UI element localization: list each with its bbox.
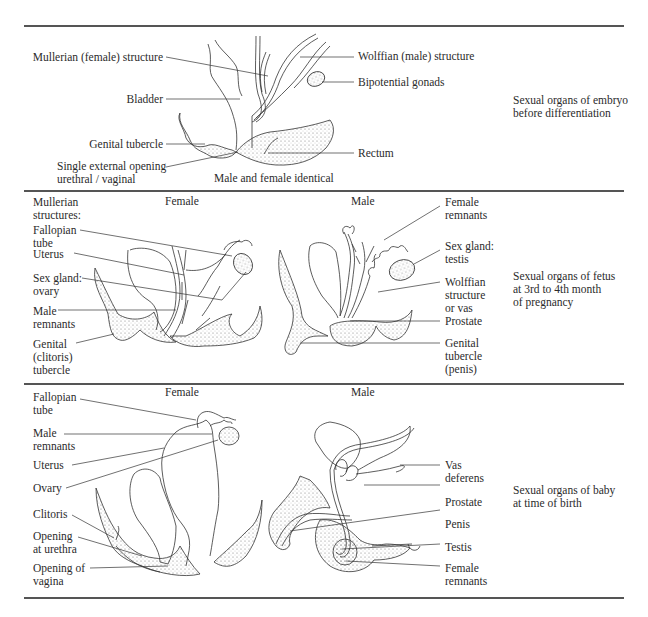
label-line: Vas	[445, 459, 484, 472]
label-fallopian-tube: Fallopian tube	[33, 224, 76, 250]
label-line: tubercle	[33, 364, 73, 377]
caption-line: of pregnancy	[513, 296, 615, 309]
label-line: deferens	[445, 472, 484, 485]
label-line: Female	[445, 196, 487, 209]
label-sex-gland-ovary: Sex gland: ovary	[33, 272, 82, 298]
label-vas-deferens: Vas deferens	[445, 459, 484, 485]
label-line: structure	[445, 289, 485, 302]
label-single-external-opening: Single external opening urethral / vagin…	[57, 160, 166, 186]
label-line: Genital	[33, 338, 73, 351]
label-female-remnants-birth: Female remnants	[445, 562, 487, 588]
label-ovary-birth: Ovary	[33, 482, 62, 495]
label-line: Testis	[445, 541, 472, 554]
label-line: Fallopian	[33, 224, 76, 237]
label-line: Male	[33, 305, 75, 318]
label-line: Female	[445, 562, 487, 575]
caption-embryo: Sexual organs of embryo before different…	[513, 94, 628, 120]
label-line: (clitoris)	[33, 351, 73, 364]
label-line: Genital	[445, 337, 482, 350]
label-line: Male	[33, 427, 75, 440]
caption-line: before differentiation	[513, 107, 628, 120]
label-line: Prostate	[445, 315, 482, 328]
label-line: Ovary	[33, 482, 62, 495]
label-line: structures:	[33, 209, 81, 222]
label-mullerian-female-structure: Mullerian (female) structure	[33, 51, 163, 64]
fetus-male-drawing	[279, 226, 418, 355]
label-line: urethral / vaginal	[57, 173, 166, 186]
label-opening-at-urethra: Opening at urethra	[33, 530, 77, 556]
label-line: Sex gland:	[33, 272, 82, 285]
label-penis: Penis	[445, 518, 470, 531]
label-male-remnants-birth: Male remnants	[33, 427, 75, 453]
embryo-drawing	[179, 34, 334, 165]
label-opening-of-vagina: Opening of vagina	[33, 562, 85, 588]
label-mullerian-structures: Mullerian structures:	[33, 196, 81, 222]
caption-line: Sexual organs of fetus	[513, 270, 615, 283]
label-fallopian-tube-birth: Fallopian tube	[33, 391, 76, 417]
label-line: Prostate	[445, 496, 482, 509]
label-line: remnants	[33, 318, 75, 331]
label-line: Opening of	[33, 562, 85, 575]
label-line: at urethra	[33, 543, 77, 556]
caption-line: Sexual organs of baby	[513, 484, 615, 497]
caption-line: at time of birth	[513, 497, 615, 510]
label-line: vagina	[33, 575, 85, 588]
label-wolffian-structure-or-vas: Wolffian structure or vas	[445, 276, 485, 315]
caption-line: at 3rd to 4th month	[513, 283, 615, 296]
label-line: Opening	[33, 530, 77, 543]
label-line: tubercle	[445, 350, 482, 363]
label-male-remnants-fetus: Male remnants	[33, 305, 75, 331]
embryo-bladder	[208, 44, 237, 150]
caption-line: Sexual organs of embryo	[513, 94, 628, 107]
label-line: Mullerian	[33, 196, 81, 209]
label-wolffian-male-structure: Wolffian (male) structure	[358, 50, 474, 63]
label-line: Sex gland:	[445, 240, 494, 253]
label-bladder: Bladder	[127, 93, 163, 106]
label-line: Penis	[445, 518, 470, 531]
label-line: (penis)	[445, 363, 482, 376]
label-bipotential-gonads: Bipotential gonads	[358, 76, 445, 89]
label-prostate-fetus: Prostate	[445, 315, 482, 328]
label-uterus: Uterus	[33, 248, 64, 261]
label-line: tube	[33, 404, 76, 417]
label-genital-clitoris-tubercle: Genital (clitoris) tubercle	[33, 338, 73, 377]
embryo-subtitle: Male and female identical	[214, 172, 334, 185]
embryo-genital-tubercle	[179, 113, 236, 158]
label-line: Single external opening	[57, 160, 166, 173]
label-line: Uterus	[33, 459, 64, 472]
fetus-female-heading: Female	[165, 195, 199, 207]
birth-female-drawing	[96, 411, 262, 575]
label-genital-tubercle: Genital tubercle	[89, 138, 163, 151]
label-line: remnants	[33, 440, 75, 453]
label-clitoris: Clitoris	[33, 508, 68, 521]
label-line: testis	[445, 253, 494, 266]
label-uterus-birth: Uterus	[33, 459, 64, 472]
label-line: ovary	[33, 285, 82, 298]
label-line: remnants	[445, 209, 487, 222]
birth-female-heading: Female	[165, 386, 199, 398]
label-female-remnants-fetus: Female remnants	[445, 196, 487, 222]
label-prostate-birth: Prostate	[445, 496, 482, 509]
caption-fetus: Sexual organs of fetus at 3rd to 4th mon…	[513, 270, 615, 309]
label-testis: Testis	[445, 541, 472, 554]
label-line: Wolffian	[445, 276, 485, 289]
embryo-rectum	[236, 120, 333, 165]
label-sex-gland-testis: Sex gland: testis	[445, 240, 494, 266]
label-line: Fallopian	[33, 391, 76, 404]
birth-male-heading: Male	[351, 386, 375, 398]
fetus-male-heading: Male	[351, 195, 375, 207]
caption-birth: Sexual organs of baby at time of birth	[513, 484, 615, 510]
label-line: or vas	[445, 302, 485, 315]
label-line: remnants	[445, 575, 487, 588]
label-genital-tubercle-penis: Genital tubercle (penis)	[445, 337, 482, 376]
label-rectum: Rectum	[358, 147, 394, 160]
label-line: Clitoris	[33, 508, 68, 521]
label-line: Uterus	[33, 248, 64, 261]
